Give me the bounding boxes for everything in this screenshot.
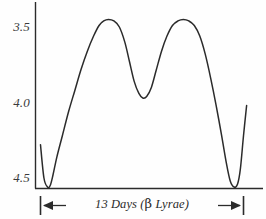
caption-prefix: 13 Days ( [95,197,145,211]
light-curve-line [41,19,247,187]
span-left-arrowhead [43,201,53,210]
plot-area [0,0,266,219]
caption-suffix: Lyrae) [152,197,189,211]
light-curve-figure: 3.5 4.0 4.5 13 Days (β Lyrae) [0,0,266,219]
y-tick-label-4-0: 4.0 [2,95,30,111]
x-axis-caption: 13 Days (β Lyrae) [66,196,218,212]
span-right-arrowhead [231,201,241,210]
y-tick-label-3-5: 3.5 [2,19,30,35]
y-tick-label-4-5: 4.5 [2,170,30,186]
